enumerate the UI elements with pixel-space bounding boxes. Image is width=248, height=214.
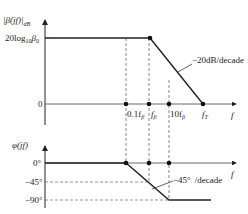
phase-tick-90: −90° (25, 195, 43, 205)
tick-dot-fb (147, 102, 152, 107)
magnitude-slope-annotation: −20dB/decade (192, 55, 244, 65)
phase-dot-fb (147, 161, 152, 166)
tick-dot-fT (201, 102, 206, 107)
phase-dot-10fb (167, 161, 172, 166)
phase-slope-leader-line (152, 181, 173, 189)
breakpoint-dot (148, 36, 153, 41)
tick-label-fb: fβ (151, 109, 157, 120)
magnitude-plot: |β̇(jf)|dB 20log10β0 0 0.1fβ fβ 10fβ fT … (3, 15, 244, 200)
phase-tick-0: 0° (33, 158, 42, 168)
magnitude-ylabel: |β̇(jf)|dB (3, 15, 30, 27)
tick-label-fT: fT (202, 109, 209, 120)
tick-dot-01fb (124, 102, 129, 107)
phase-xlabel: f (231, 169, 235, 179)
phase-tick-45: −45° (25, 177, 43, 187)
bode-diagram: |β̇(jf)|dB 20log10β0 0 0.1fβ fβ 10fβ fT … (0, 0, 248, 214)
magnitude-zero-label: 0 (38, 99, 43, 109)
magnitude-xlabel: f (231, 110, 235, 120)
tick-dot-10fb (167, 102, 172, 107)
phase-ylabel: φ(jf) (12, 140, 28, 150)
phase-plot: φ(jf) 0° −45° −90° f −45°/decade (12, 140, 236, 208)
phase-dot-01fb (124, 161, 129, 166)
slope-leader-line (178, 64, 192, 72)
tick-label-01fb: 0.1fβ (127, 109, 144, 120)
tick-label-10fb: 10fβ (170, 109, 185, 120)
gain-level-label: 20log10β0 (5, 33, 39, 44)
phase-slope-annotation: −45°/decade (173, 175, 222, 185)
